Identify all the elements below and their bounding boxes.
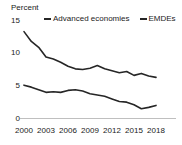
- plot-area: [0, 0, 182, 145]
- chart-container: Percent Advanced economies EMDEs 15 10 5…: [0, 0, 182, 145]
- series-line-emdes: [24, 32, 156, 78]
- series-line-advanced-economies: [24, 85, 156, 109]
